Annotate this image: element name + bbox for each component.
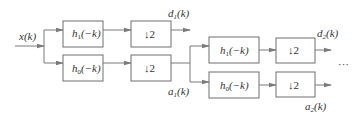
svg-text:h1(−k): h1(−k) xyxy=(72,27,101,41)
stage1-lowpass-filter-box: h0(−k) xyxy=(63,55,103,81)
svg-text:↓2: ↓2 xyxy=(288,44,299,56)
stage2-low-downsample-box: ↓2 xyxy=(276,72,315,97)
stage1-low-downsample-box: ↓2 xyxy=(131,55,171,81)
input-label: x(k) xyxy=(18,30,36,43)
stage1-high-downsample-box: ↓2 xyxy=(131,21,171,47)
d2-label: d2(k) xyxy=(317,27,339,41)
a2-label: a2(k) xyxy=(305,100,327,114)
stage2-high-downsample-box: ↓2 xyxy=(276,38,315,63)
filter-bank-diagram: x(k) h1(−k) h0(−k) ↓2 ↓2 d1(k) a1(k) h1(… xyxy=(0,0,357,117)
svg-text:h1(−k): h1(−k) xyxy=(220,44,249,58)
svg-text:h0(−k): h0(−k) xyxy=(72,62,101,76)
stage2-highpass-filter-box: h1(−k) xyxy=(209,37,259,63)
svg-text:↓2: ↓2 xyxy=(288,79,299,91)
svg-text:↓2: ↓2 xyxy=(144,62,155,74)
a1-label: a1(k) xyxy=(168,85,190,99)
d1-label: d1(k) xyxy=(168,7,190,21)
stage2-lowpass-filter-box: h0(−k) xyxy=(209,72,259,98)
continuation-ellipsis: ··· xyxy=(338,58,349,70)
svg-text:h0(−k): h0(−k) xyxy=(220,79,249,93)
svg-text:↓2: ↓2 xyxy=(144,28,155,40)
stage1-highpass-filter-box: h1(−k) xyxy=(63,21,103,47)
